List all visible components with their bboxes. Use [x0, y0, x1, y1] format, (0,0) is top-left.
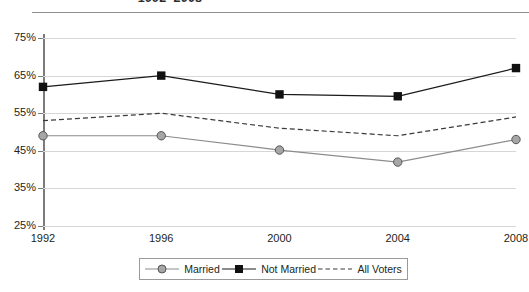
y-axis-tick-label: 45% — [0, 144, 36, 156]
chart-title: 1992–2008 — [0, 0, 340, 5]
y-axis-tick-label: 65% — [0, 69, 36, 81]
data-point-married — [39, 132, 47, 140]
legend-swatch-married — [145, 263, 179, 275]
data-point-married — [275, 146, 283, 154]
chart-legend: Married Not Married All Voters — [139, 258, 408, 280]
legend-label-all-voters: All Voters — [357, 263, 401, 275]
legend-label-married: Married — [184, 263, 220, 275]
data-point-not-married — [275, 90, 283, 98]
x-axis-tick-label: 1992 — [13, 232, 73, 244]
x-axis-tick-label: 1996 — [131, 232, 191, 244]
plot-area — [43, 38, 516, 226]
legend-item-not-married[interactable]: Not Married — [222, 263, 316, 275]
legend-item-all-voters[interactable]: All Voters — [318, 263, 401, 275]
data-point-not-married — [39, 83, 47, 91]
y-axis-tick-label: 25% — [0, 219, 36, 231]
x-axis-tick-label: 2004 — [368, 232, 428, 244]
x-axis-tick-label: 2000 — [250, 232, 310, 244]
y-axis-tick-label: 55% — [0, 106, 36, 118]
y-axis-tick-label: 75% — [0, 31, 36, 43]
data-point-not-married — [394, 92, 402, 100]
data-point-married — [157, 132, 165, 140]
data-point-not-married — [512, 64, 520, 72]
gridline — [43, 226, 516, 227]
data-point-married — [512, 135, 520, 143]
data-point-not-married — [157, 71, 165, 79]
legend-label-not-married: Not Married — [261, 263, 316, 275]
data-point-married — [394, 158, 402, 166]
title-divider — [32, 12, 529, 13]
x-axis-tick-label: 2008 — [486, 232, 529, 244]
series-layer — [43, 38, 516, 226]
y-axis-tick-label: 35% — [0, 181, 36, 193]
legend-swatch-not-married — [222, 263, 256, 275]
chart-figure: 1992–2008 75%65%55%45%35%25% 19921996200… — [0, 0, 529, 292]
legend-item-married[interactable]: Married — [145, 263, 220, 275]
series-line-all-voters — [43, 113, 516, 136]
legend-swatch-all-voters — [318, 263, 352, 275]
